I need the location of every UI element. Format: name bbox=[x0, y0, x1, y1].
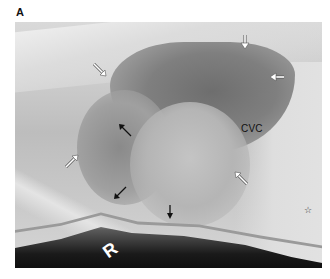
white-arrow-icon bbox=[64, 153, 80, 169]
white-arrow-icon bbox=[237, 34, 253, 50]
cardiac-silhouette bbox=[130, 102, 250, 227]
black-arrow-icon bbox=[112, 185, 128, 201]
panel-label: A bbox=[16, 6, 24, 18]
star-icon: ☆ bbox=[304, 205, 312, 215]
white-arrow-icon bbox=[233, 170, 249, 186]
radiograph-image bbox=[15, 22, 322, 268]
white-arrow-icon bbox=[92, 62, 108, 78]
black-arrow-icon bbox=[117, 122, 133, 138]
black-arrow-icon bbox=[162, 204, 178, 220]
white-arrow-icon bbox=[269, 69, 285, 85]
cvc-label: CVC bbox=[241, 123, 263, 134]
